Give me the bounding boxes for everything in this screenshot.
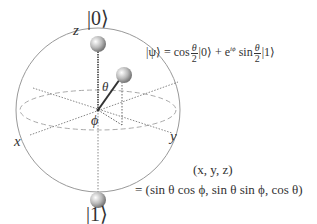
eq-lhs: |ψ⟩ = cos (146, 45, 190, 59)
eq-rhs: |1⟩ (262, 45, 275, 59)
phi-label: ϕ (91, 113, 98, 129)
theta-label: θ (102, 79, 108, 95)
eq-mid: |0⟩ + e (199, 45, 231, 59)
ket-zero-label: |0⟩ (87, 6, 109, 30)
ball-state (116, 67, 132, 83)
origin-dot (97, 109, 100, 112)
coordinates-line-1: (x, y, z) (193, 162, 233, 178)
coordinates-line-2: = (sin θ cos ϕ, sin θ sin ϕ, cos θ) (135, 182, 303, 198)
z-axis-label: z (73, 22, 79, 39)
eq-frac-1: θ2 (191, 43, 198, 64)
ket-one-label: |1⟩ (86, 202, 108, 224)
x-axis-label: x (14, 133, 21, 150)
eq-frac-2: θ2 (254, 43, 261, 64)
state-equation: |ψ⟩ = cosθ2|0⟩ + eiϕ sinθ2|1⟩ (146, 43, 275, 64)
projection-horizontal (98, 110, 122, 125)
eq-mid2: sin (236, 45, 253, 59)
y-axis-label: y (170, 128, 177, 145)
ball-top (90, 36, 106, 52)
